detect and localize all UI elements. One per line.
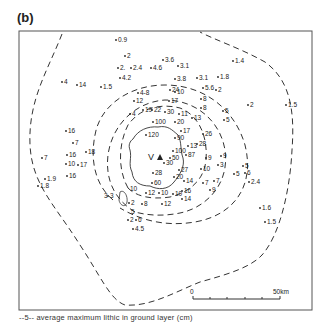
sample-point-value: 12: [164, 200, 172, 207]
sample-point-value: 20: [177, 118, 185, 125]
sample-point-dot: [205, 157, 207, 159]
sample-point-value: 9: [208, 154, 212, 161]
sample-point-value: 11: [181, 110, 188, 117]
sample-point-dot: [132, 228, 134, 230]
sample-point-dot: [137, 92, 139, 94]
sample-point-value: 90: [177, 134, 185, 141]
sample-point-dot: [129, 113, 131, 115]
sample-point-dot: [180, 130, 182, 132]
sample-point-dot: [107, 195, 109, 197]
sample-point-dot: [172, 150, 174, 152]
sample-point-value: 7: [205, 179, 209, 186]
sample-point-dot: [76, 84, 78, 86]
sample-point-value: 4.5: [135, 225, 144, 232]
sample-point-value: 1.4: [235, 57, 244, 64]
sample-point-dot: [77, 164, 79, 166]
sample-point-value: 120: [148, 131, 159, 138]
sample-point-dot: [217, 76, 219, 78]
sample-point-dot: [158, 192, 160, 194]
sample-point-value: 1.5: [267, 218, 276, 225]
sample-point-value: 30: [167, 108, 175, 115]
sample-point-dot: [44, 178, 46, 180]
sample-point-dot: [202, 87, 204, 89]
sample-point-value: 13: [194, 114, 202, 121]
sample-point-value: 20: [176, 173, 184, 180]
sample-point-value: 5: [225, 107, 229, 114]
sample-point-value: 7: [44, 154, 48, 161]
sample-point-dot: [191, 117, 193, 119]
sample-point-value: 7: [75, 139, 79, 146]
sample-point-value: 17: [183, 127, 191, 134]
sample-point-value: 8: [144, 200, 148, 207]
sample-point-dot: [124, 55, 126, 57]
sample-point-value: 1.6: [262, 204, 271, 211]
sample-point-value: 0.9: [118, 36, 127, 43]
sample-point-dot: [152, 121, 154, 123]
small-island-outline: [119, 191, 127, 205]
sample-point-dot: [181, 190, 183, 192]
sample-point-value: 3.1: [180, 62, 189, 69]
sample-point-value: 28: [155, 169, 163, 176]
sample-point-value: 14: [186, 177, 194, 184]
sample-point-value: 10: [68, 160, 76, 167]
sample-point-dot: [145, 134, 147, 136]
contour-label-10: 10: [130, 185, 138, 192]
sample-point-dot: [174, 121, 176, 123]
map-frame: [19, 31, 312, 310]
sample-point-dot: [168, 100, 170, 102]
sample-point-dot: [185, 154, 187, 156]
sample-point-value: 4.6: [153, 64, 162, 71]
sample-point-dot: [174, 137, 176, 139]
sample-point-value: 60: [154, 179, 162, 186]
sample-point-dot: [200, 107, 202, 109]
scale-bar: 0 50km: [190, 288, 289, 299]
sample-point-value: 10: [161, 189, 169, 196]
sample-point-dot: [200, 98, 202, 100]
scale-start-label: 0: [190, 288, 194, 295]
sample-point-value: 5: [236, 170, 240, 177]
sample-point-dot: [233, 173, 235, 175]
sample-point-value: 3.8: [177, 75, 186, 82]
contour-label-5: 5: [131, 208, 135, 215]
sample-point-value: 9: [212, 186, 216, 193]
sample-point-dot: [248, 181, 250, 183]
sample-point-dot: [141, 203, 143, 205]
sample-point-dot: [172, 193, 174, 195]
sample-point-dot: [135, 219, 137, 221]
sample-point-value: 10: [177, 88, 185, 95]
sample-point-dot: [183, 180, 185, 182]
sample-point-value: 1.8: [220, 73, 229, 80]
sample-point-dot: [215, 89, 217, 91]
sample-point-dot: [142, 109, 144, 111]
sample-point-dot: [128, 202, 130, 204]
sample-point-value: 4: [64, 78, 68, 85]
sample-point-value: 1.5: [288, 101, 297, 108]
sample-point-dot: [174, 91, 176, 93]
sample-point-value: 16: [69, 172, 77, 179]
sample-point-value: 18: [88, 148, 96, 155]
sample-point-value: 22: [154, 106, 162, 113]
sample-point-value: 50: [172, 154, 180, 161]
sample-point-value: 9: [223, 152, 227, 159]
sample-point-dot: [151, 182, 153, 184]
sample-point-value: 17: [80, 161, 88, 168]
sample-point-dot: [65, 163, 67, 165]
sample-point-value: 5: [226, 116, 230, 123]
sample-point-dot: [223, 119, 225, 121]
sample-point-value: 27: [181, 166, 189, 173]
sample-point-dot: [72, 142, 74, 144]
sample-point-value: 3.1: [199, 74, 208, 81]
sample-point-dot: [209, 189, 211, 191]
sample-point-value: 6: [138, 216, 142, 223]
sample-point-value: 2: [250, 101, 254, 108]
sample-point-value: 4-8: [140, 89, 150, 96]
sample-point-dot: [145, 192, 147, 194]
sample-point-dot: [152, 172, 154, 174]
sample-point-value: 26: [205, 130, 213, 137]
sample-point-dot: [127, 219, 129, 221]
sample-point-dot: [151, 109, 153, 111]
sample-point-value: 17: [171, 97, 179, 104]
sample-point-dot: [213, 180, 215, 182]
sample-point-dot: [66, 175, 68, 177]
sample-point-value: 16: [184, 187, 192, 194]
